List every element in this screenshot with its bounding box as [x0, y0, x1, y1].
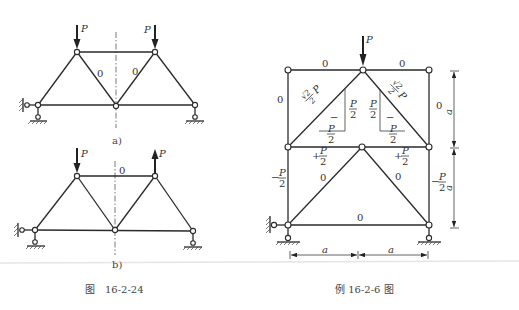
svg-text:2: 2 [402, 156, 408, 167]
wall-hatch [14, 223, 18, 237]
horizontal-dimension [290, 251, 428, 259]
load-arrow-down [152, 25, 159, 49]
ground-hatch [28, 121, 47, 124]
truss-diagram-b: P P 0 b) [14, 148, 202, 270]
wall-pin [20, 228, 25, 233]
member-force-label: 0 [119, 165, 125, 176]
svg-text:P: P [389, 123, 397, 134]
load-arrow-up [152, 149, 159, 174]
inner-right-diagonal [115, 176, 155, 230]
member-force-label: 0 [395, 171, 401, 182]
member-force-label: 0 [399, 58, 405, 69]
right-diagonal [155, 176, 193, 231]
fraction-mid-left: + P 2 [312, 145, 327, 167]
load-label: P [365, 34, 373, 45]
svg-text:P: P [278, 167, 286, 178]
svg-text:2: 2 [279, 178, 285, 189]
load-label: P [80, 148, 88, 159]
fraction-left-lower: − P 2 [271, 167, 286, 189]
fraction-vert-comp-left: P 2 [349, 98, 357, 120]
ground-hatch [276, 242, 300, 245]
joint-node [74, 49, 79, 54]
dimension-label: a [322, 244, 328, 255]
joint-node [426, 222, 432, 228]
joint-node [152, 49, 157, 54]
joint-node [285, 144, 291, 150]
joint-node [192, 102, 197, 107]
member-force-label: 0 [277, 94, 283, 105]
joint-node [190, 228, 195, 233]
subfigure-label: b) [112, 259, 122, 270]
member-force-label: 0 [320, 172, 326, 183]
joint-node [426, 144, 432, 150]
joint-node [74, 173, 79, 178]
truss-diagram-example: − − [266, 34, 459, 259]
joint-node [359, 144, 365, 150]
ground-pin [191, 241, 196, 246]
svg-text:2: 2 [370, 109, 376, 120]
figure-caption: 图 16-2-24 [85, 284, 144, 295]
svg-text:P: P [327, 123, 335, 134]
svg-text:2: 2 [350, 109, 356, 120]
ground-hatch [26, 246, 45, 249]
truss-diagram-a: P P 0 0 a) [19, 23, 204, 146]
svg-text:P: P [349, 98, 357, 109]
ground-hatch [417, 242, 441, 245]
joint-node [112, 227, 117, 232]
svg-text:P: P [369, 98, 377, 109]
load-arrow-down [74, 148, 81, 173]
svg-text:P: P [319, 145, 327, 156]
member-force-label: 0 [436, 100, 442, 111]
fraction-horiz-comp-left: P 2 [327, 123, 335, 145]
figure-caption: 例 16-2-6 图 [335, 283, 394, 295]
joint-node [35, 102, 40, 107]
wall-hatch [266, 216, 270, 233]
dimension-label: a [443, 185, 454, 191]
wall-pin [25, 103, 30, 108]
subfigure-label: a) [112, 135, 122, 146]
ground-pin [285, 235, 290, 240]
vertical-dimension [450, 71, 459, 228]
svg-text:2: 2 [328, 134, 334, 145]
inner-left-diagonal [77, 176, 115, 230]
ground-pin [36, 115, 41, 120]
left-diagonal [38, 52, 77, 105]
load-label: P [80, 23, 88, 34]
joint-node [152, 173, 157, 178]
diagonal-force-label-left: √2 2 P [299, 81, 326, 108]
dimension-label: a [443, 109, 454, 115]
fraction-mid-right: + P 2 [394, 145, 409, 167]
svg-text:2: 2 [386, 86, 397, 97]
load-label: P [158, 148, 166, 159]
right-diagonal [155, 52, 195, 105]
svg-text:2: 2 [307, 96, 318, 107]
member-force-label: 0 [357, 212, 363, 223]
ground-hatch [183, 247, 202, 250]
inner-right-diagonal [116, 52, 155, 105]
svg-text:2: 2 [390, 134, 396, 145]
sign-label: − [330, 112, 338, 123]
fraction-vert-comp-right: P 2 [369, 98, 377, 120]
joint-node [113, 103, 118, 108]
ground-pin [33, 240, 38, 245]
dimension-label: a [388, 244, 394, 255]
ground-hatch [185, 121, 204, 124]
load-arrow-down [74, 25, 81, 49]
svg-text:P: P [401, 145, 409, 156]
joint-node [360, 67, 366, 73]
joint-node [426, 67, 432, 73]
wall-pin [271, 222, 276, 227]
ground-pin [426, 235, 431, 240]
member-force-label: 0 [132, 66, 138, 77]
fraction-horiz-comp-right: P 2 [389, 123, 397, 145]
sign-label: − [386, 112, 394, 123]
svg-text:2: 2 [320, 156, 326, 167]
joint-node [285, 67, 291, 73]
joint-node [32, 227, 37, 232]
member-force-label: 0 [322, 58, 328, 69]
svg-text:P: P [438, 171, 446, 182]
scan-artifact-line [0, 261, 519, 263]
ground-pin [193, 115, 198, 120]
wall-hatch [19, 98, 23, 112]
joint-node [285, 222, 291, 228]
